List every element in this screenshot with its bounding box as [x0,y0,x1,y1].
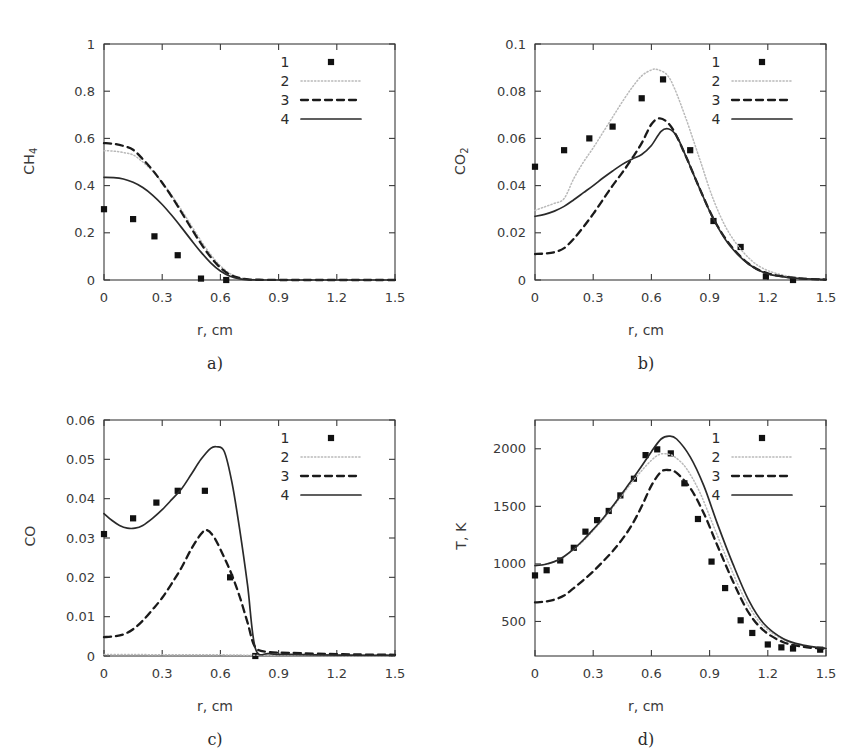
series-4 [535,129,826,280]
y-axis-label-text: T, K [453,522,469,549]
panel-caption-a: a) [0,354,430,373]
y-tick-label: 0 [87,273,95,288]
data-point-marker [586,135,592,141]
data-point-marker [223,277,229,283]
series-2 [104,151,395,280]
legend-label-4: 4 [281,487,290,503]
y-tick-label: 0.6 [74,131,95,146]
x-tick-label: 0.6 [641,290,662,305]
plot-area-d: 00.30.60.91.21.55001000150020001234 [431,376,861,686]
legend-label-3: 3 [712,468,721,484]
y-tick-label: 0.1 [505,37,526,52]
y-tick-label: 0 [518,273,526,288]
curve-4 [535,129,826,280]
x-tick-label: 1.5 [816,290,837,305]
data-point-marker [722,585,728,591]
legend-label-3: 3 [281,468,290,484]
legend-label-1: 1 [712,430,721,446]
data-point-marker [561,147,567,153]
panel-a: 00.30.60.91.21.500.20.40.60.811234 CH4 r… [0,0,430,376]
x-axis-label-b: r, cm [431,322,861,338]
curve-4 [104,446,395,655]
data-point-marker [582,529,588,535]
x-tick-label: 0.6 [210,666,231,681]
y-tick-label: 0.04 [66,491,95,506]
panel-caption-b: b) [431,354,861,373]
plot-area-b: 00.30.60.91.21.500.020.040.060.080.11234 [431,0,861,310]
data-point-marker [130,515,136,521]
y-axis-label-c: CO [22,506,38,566]
x-tick-label: 0 [531,666,539,681]
y-tick-label: 0.02 [66,570,95,585]
legend-label-2: 2 [712,449,721,465]
series-4 [104,446,395,655]
chart-svg-b: 00.30.60.91.21.500.020.040.060.080.11234 [431,0,861,310]
series-4 [535,436,826,648]
legend-label-4: 4 [281,111,290,127]
data-point-marker [532,164,538,170]
y-tick-label: 0.01 [66,609,95,624]
series-3 [104,143,395,280]
y-axis-label-b: CO2 [452,131,470,191]
legend-label-3: 3 [281,92,290,108]
y-tick-label: 0.2 [74,225,95,240]
legend-label-2: 2 [281,449,290,465]
x-tick-label: 0.9 [699,290,720,305]
x-tick-label: 0.9 [699,666,720,681]
data-point-marker [532,572,538,578]
curve-4 [535,436,826,648]
legend-label-4: 4 [712,111,721,127]
x-tick-label: 1.5 [385,666,406,681]
x-tick-label: 0.9 [268,290,289,305]
x-tick-label: 1.5 [816,666,837,681]
chart-svg-d: 00.30.60.91.21.55001000150020001234 [431,376,861,686]
y-axis-label-subscript: 4 [28,147,39,154]
x-tick-label: 0 [100,666,108,681]
figure-container: 00.30.60.91.21.500.20.40.60.811234 CH4 r… [0,0,861,752]
data-point-marker [198,275,204,281]
y-tick-label: 0.02 [497,225,526,240]
series-2 [535,454,826,649]
panel-caption-c: c) [0,730,430,749]
series-3 [535,470,826,649]
data-point-marker [749,630,755,636]
y-axis-label-a: CH4 [21,131,39,191]
y-axis-label-subscript: 2 [459,147,470,154]
series-1 [532,446,823,653]
y-tick-label: 0.08 [497,84,526,99]
y-tick-label: 1000 [493,556,526,571]
y-tick-label: 500 [501,614,526,629]
x-tick-label: 0.9 [268,666,289,681]
chart-svg-c: 00.30.60.91.21.500.010.020.030.040.050.0… [0,376,430,686]
data-point-marker [639,95,645,101]
data-point-marker [544,567,550,573]
curve-3 [104,530,395,655]
data-point-marker [101,206,107,212]
y-axis-label-text: CH [21,154,37,175]
x-tick-label: 0.3 [152,290,173,305]
y-tick-label: 0.05 [66,452,95,467]
x-axis-label-a: r, cm [0,322,430,338]
x-tick-label: 0.6 [210,290,231,305]
y-tick-label: 1 [87,37,95,52]
x-tick-label: 0 [100,290,108,305]
x-tick-label: 1.2 [326,290,347,305]
series-1 [101,488,259,659]
panel-d: 00.30.60.91.21.55001000150020001234 T, K… [431,376,861,752]
chart-svg-a: 00.30.60.91.21.500.20.40.60.811234 [0,0,430,310]
x-tick-label: 0.3 [583,666,604,681]
x-tick-label: 1.2 [757,666,778,681]
legend-label-1: 1 [281,54,290,70]
data-point-marker [202,488,208,494]
series-3 [104,530,395,655]
data-point-marker [610,124,616,130]
legend-label-2: 2 [712,73,721,89]
data-point-marker [738,617,744,623]
x-tick-label: 0.3 [152,666,173,681]
y-axis-label-text: CO [22,525,38,546]
x-axis-label-d: r, cm [431,698,861,714]
y-tick-label: 0.04 [497,178,526,193]
x-tick-label: 1.5 [385,290,406,305]
data-point-marker [765,641,771,647]
legend-label-1: 1 [712,54,721,70]
